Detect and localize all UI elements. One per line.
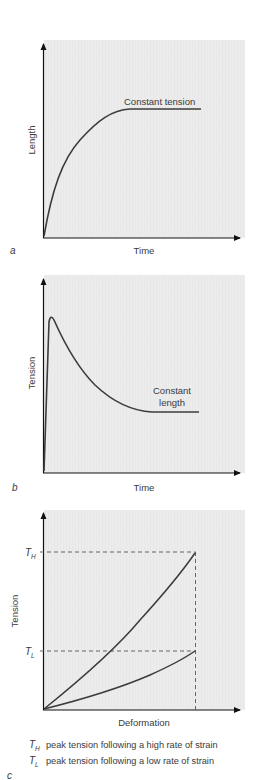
panel-b: Constant length Tension Time b [12,275,245,493]
panel-letter-c: c [7,770,12,780]
legend-item-th: THpeak tension following a high rate of … [29,739,255,752]
x-axis-label-b: Time [134,482,155,493]
y-axis-label-a: Length [26,125,37,154]
y-axis-label-c: Tension [9,595,20,628]
x-axis-label-a: Time [134,245,155,256]
legend-symbol-tl: TL [29,755,46,768]
plot-area-b [44,275,245,473]
legend-symbol-th: TH [29,739,46,752]
plot-area-c [44,510,245,710]
panel-letter-b: b [12,482,18,493]
annotation-constant-length-line1: Constant [153,385,191,396]
annotation-constant-tension: Constant tension [124,96,195,107]
figure-canvas: Constant tension Length Time a Constant … [0,0,255,780]
y-axis-label-b: Tension [26,357,37,390]
legend-text-th: peak tension following a high rate of st… [46,740,218,750]
annotation-constant-length-line2: length [159,397,185,408]
tick-label-th: TH [25,547,36,560]
plot-area-a [44,40,245,238]
x-axis-label-c: Deformation [118,717,170,728]
legend-text-tl: peak tension following a low rate of str… [46,756,214,766]
panel-a: Constant tension Length Time a [10,40,245,256]
legend-item-tl: TLpeak tension following a low rate of s… [29,755,255,768]
tick-label-tl: TL [25,646,35,659]
panel-letter-a: a [10,245,16,256]
